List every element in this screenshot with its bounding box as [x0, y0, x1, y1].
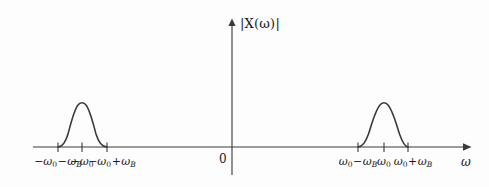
origin-label: 0 [219, 153, 227, 165]
spectrum-figure: |X(ω)| 0 ω −ω0−ωB −ω0 −ω0+ωB ω0−ωB ω0 ω0… [0, 0, 489, 187]
subscript: 0 [386, 160, 391, 169]
x-axis-arrow-icon [463, 143, 472, 151]
sign: − [88, 155, 97, 168]
y-axis-label-text: |X(ω)| [240, 16, 280, 31]
positive-frequency-lobe [358, 103, 408, 147]
subscript-2: B [427, 160, 433, 169]
origin-label-text: 0 [219, 152, 227, 166]
operator: − [57, 155, 67, 168]
tick-label-w0-plus-wB: ω0+ωB [394, 156, 432, 169]
sign: − [34, 155, 43, 168]
y-axis-label: |X(ω)| [240, 17, 280, 30]
x-axis-label-text: ω [461, 155, 471, 169]
omega-glyph: ω [339, 155, 348, 168]
omega-glyph: ω [43, 155, 52, 168]
tick-label-neg-w0-plus-wB: −ω0+ωB [88, 156, 136, 169]
y-axis-arrow-icon [228, 19, 235, 27]
sign: − [71, 155, 80, 168]
subscript-2: B [130, 160, 136, 169]
omega-glyph-2: ω [121, 155, 130, 168]
operator: − [353, 155, 363, 168]
operator: + [111, 155, 121, 168]
omega-glyph: ω [97, 155, 106, 168]
omega-glyph: ω [377, 155, 386, 168]
omega-glyph-2: ω [363, 155, 372, 168]
x-axis-label: ω [461, 156, 471, 168]
negative-frequency-lobe [58, 103, 107, 147]
operator: + [408, 155, 418, 168]
tick-label-w0: ω0 [377, 156, 391, 169]
omega-glyph-2: ω [418, 155, 427, 168]
tick-label-w0-minus-wB: ω0−ωB [339, 156, 377, 169]
omega-glyph: ω [394, 155, 403, 168]
